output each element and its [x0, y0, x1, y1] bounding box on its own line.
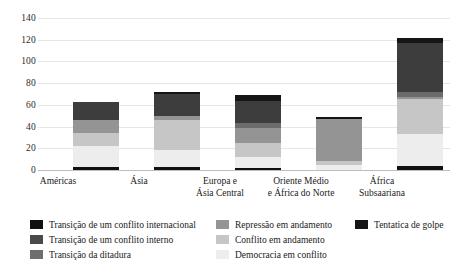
gridline: [38, 83, 450, 84]
legend-column-1: Transição de um conflito internacional T…: [30, 218, 196, 263]
bar-segment: [316, 165, 362, 170]
y-tick-label: 0: [2, 166, 36, 176]
bar-segment: [235, 168, 281, 170]
bar-segment: [73, 120, 119, 133]
bar-americas: [73, 102, 119, 170]
legend-column-2: Repressão em andamento Conflito em andam…: [216, 218, 332, 263]
legend-swatch-icon: [216, 235, 229, 244]
bar-segment: [397, 99, 443, 134]
legend-item: Tentatica de golpe: [355, 218, 444, 231]
legend-item: Transição da ditadura: [30, 248, 196, 261]
bar-segment: [397, 166, 443, 170]
legend-swatch-icon: [30, 220, 43, 229]
legend-label: Repressão em andamento: [235, 220, 332, 230]
y-tick-label: 20: [2, 144, 36, 154]
bar-segment: [73, 146, 119, 167]
bar-segment: [73, 133, 119, 146]
gridline-baseline: [38, 170, 450, 171]
y-tick-label: 140: [2, 14, 36, 24]
legend-swatch-icon: [355, 220, 368, 229]
gridline: [38, 40, 450, 41]
legend-item: Conflito em andamento: [216, 233, 332, 246]
bar-segment: [235, 101, 281, 124]
legend-swatch-icon: [30, 235, 43, 244]
bar-africa-subsaariana: [397, 38, 443, 170]
bar-segment: [73, 102, 119, 120]
bar-oriente-medio-africa-norte: [316, 117, 362, 170]
bar-segment: [235, 128, 281, 143]
gridline: [38, 61, 450, 62]
y-tick-label: 120: [2, 36, 36, 46]
bar-segment: [316, 119, 362, 161]
legend-swatch-icon: [30, 250, 43, 259]
bar-segment: [235, 157, 281, 168]
bar-asia: [154, 92, 200, 170]
legend-item: Transição de um conflito interno: [30, 233, 196, 246]
bar-segment: [235, 143, 281, 157]
legend-item: Repressão em andamento: [216, 218, 332, 231]
y-tick-label: 40: [2, 123, 36, 133]
legend-label: Democracia em conflito: [235, 250, 327, 260]
legend-item: Democracia em conflito: [216, 248, 332, 261]
legend-label: Transição da ditadura: [49, 250, 131, 260]
gridline: [38, 18, 450, 19]
bar-segment: [73, 167, 119, 170]
y-tick-label: 60: [2, 101, 36, 111]
x-label-line1: África: [324, 176, 440, 188]
legend-label: Transição de um conflito internacional: [49, 220, 196, 230]
y-tick-label: 100: [2, 57, 36, 67]
legend-label: Tentatica de golpe: [374, 220, 444, 230]
bar-segment: [154, 120, 200, 150]
y-tick-label: 80: [2, 79, 36, 89]
legend-column-3: Tentatica de golpe: [355, 218, 444, 233]
bar-europa-asia-central: [235, 95, 281, 170]
x-label-line2: Subsaariana: [324, 188, 440, 200]
stacked-bar-chart: 140 120 100 80 60 40 20 0 Américas Ásia: [0, 0, 460, 274]
bar-segment: [154, 150, 200, 166]
legend-label: Conflito em andamento: [235, 235, 325, 245]
chart-legend: Transição de um conflito internacional T…: [0, 218, 460, 274]
bar-segment: [154, 167, 200, 170]
legend-label: Transição de um conflito interno: [49, 235, 173, 245]
bar-segment: [154, 94, 200, 116]
legend-item: Transição de um conflito internacional: [30, 218, 196, 231]
legend-swatch-icon: [216, 250, 229, 259]
legend-swatch-icon: [216, 220, 229, 229]
bar-segment: [397, 134, 443, 165]
plot-area: [38, 18, 450, 170]
x-tick-label-africa-subsaariana: África Subsaariana: [324, 176, 440, 199]
bar-segment: [397, 43, 443, 92]
